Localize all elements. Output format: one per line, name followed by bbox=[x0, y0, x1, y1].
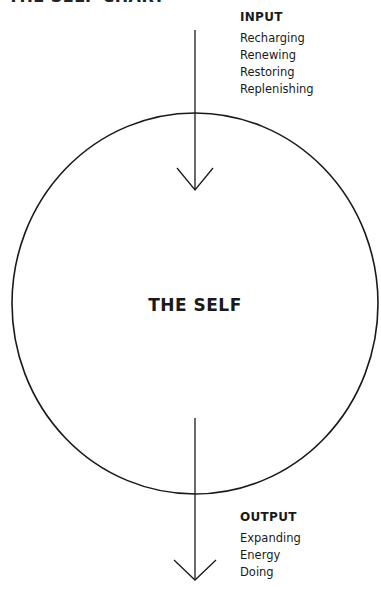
output-arrow-icon bbox=[174, 418, 216, 580]
center-label: THE SELF bbox=[0, 295, 381, 315]
output-item: Doing bbox=[240, 564, 301, 581]
input-item: Replenishing bbox=[240, 81, 314, 98]
output-item: Expanding bbox=[240, 530, 301, 547]
output-block: OUTPUT Expanding Energy Doing bbox=[240, 510, 301, 581]
output-item: Energy bbox=[240, 547, 301, 564]
input-heading: INPUT bbox=[240, 10, 314, 24]
input-arrow-icon bbox=[177, 30, 213, 190]
input-item: Restoring bbox=[240, 64, 314, 81]
output-heading: OUTPUT bbox=[240, 510, 301, 524]
input-item: Renewing bbox=[240, 47, 314, 64]
input-item: Recharging bbox=[240, 30, 314, 47]
input-block: INPUT Recharging Renewing Restoring Repl… bbox=[240, 10, 314, 98]
